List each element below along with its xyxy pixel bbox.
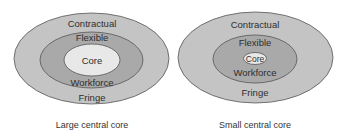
- caption-large-central-core: Large central core: [56, 120, 129, 130]
- label-fringe: Fringe: [79, 92, 106, 103]
- label-core: Core: [82, 55, 103, 66]
- caption-small-central-core: Small central core: [219, 120, 291, 130]
- label-fringe: Fringe: [242, 87, 269, 98]
- label-core: Core: [246, 54, 265, 64]
- flexible-firm-diagram: Contractual Flexible Core Workforce Frin…: [0, 0, 345, 140]
- label-contractual: Contractual: [231, 19, 280, 30]
- diagram-large-central-core: Contractual Flexible Core Workforce Frin…: [14, 13, 169, 130]
- label-contractual: Contractual: [68, 18, 117, 29]
- diagram-small-central-core: Contractual Flexible Core Workforce Frin…: [178, 12, 333, 130]
- label-flexible: Flexible: [239, 37, 272, 48]
- label-workforce: Workforce: [233, 67, 276, 78]
- label-flexible: Flexible: [76, 32, 109, 43]
- label-workforce: Workforce: [70, 77, 113, 88]
